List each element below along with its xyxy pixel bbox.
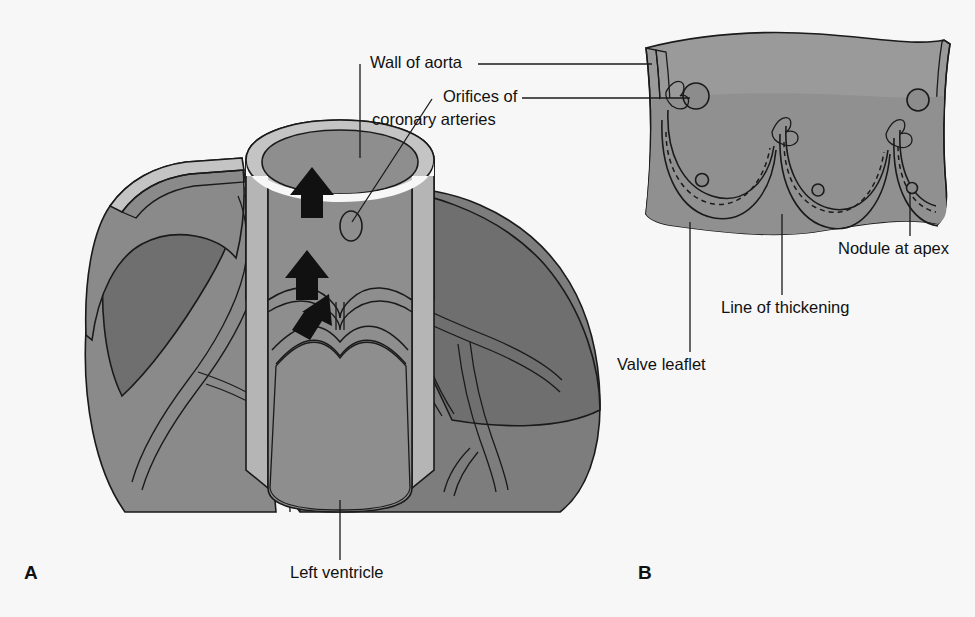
label-left-ventricle: Left ventricle <box>290 563 384 581</box>
aorta-cut-edge-left <box>246 160 268 488</box>
anatomical-figure: Wall of aorta Orifices of coronary arter… <box>0 0 975 617</box>
label-orifices-line1: Orifices of <box>443 87 518 105</box>
label-nodule-at-apex: Nodule at apex <box>838 239 950 257</box>
panel-letter-a: A <box>24 562 38 583</box>
leaflet-3-nodule <box>907 183 918 194</box>
label-line-of-thickening: Line of thickening <box>721 298 849 316</box>
label-orifices-line2: coronary arteries <box>372 110 496 128</box>
leaflet-2-nodule <box>812 184 824 196</box>
aorta-rim-inner-opening <box>262 130 418 194</box>
coronary-orifice-2 <box>907 89 929 111</box>
label-wall-of-aorta: Wall of aorta <box>370 53 463 71</box>
panel-b-illustration <box>646 33 950 235</box>
aorta-cut-edge-right <box>412 160 434 488</box>
aorta-sheet-lower-zone <box>646 93 947 234</box>
label-valve-leaflet: Valve leaflet <box>617 355 706 373</box>
panel-letter-b: B <box>638 562 652 583</box>
coronary-orifice-ellipse <box>340 211 362 241</box>
leaflet-1-nodule <box>696 174 709 187</box>
